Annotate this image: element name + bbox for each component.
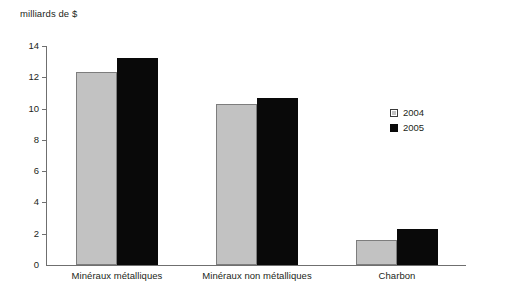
legend-swatch-2005-icon [390,124,398,132]
plot-area: 02468101214 Minéraux métalliquesMinéraux… [46,46,466,265]
category-label: Minéraux non métalliques [202,270,311,282]
y-tick-label: 12 [28,71,39,82]
y-axis-line [46,46,47,265]
y-axis-title: milliards de $ [20,8,77,20]
bar-group [76,46,158,265]
bar-chart: milliards de $ 02468101214 Minéraux méta… [0,0,511,308]
y-tick-label: 2 [34,228,39,239]
y-tick-label: 8 [34,134,39,145]
bar-group [216,46,298,265]
bar-2004[interactable] [76,72,117,265]
bar-2005[interactable] [117,58,158,265]
category-label: Charbon [379,270,416,282]
legend-label-2005: 2005 [403,122,424,133]
y-tick-label: 14 [28,40,39,51]
y-tick-label: 10 [28,103,39,114]
chart-legend: 2004 2005 [390,105,424,135]
y-tick-mark [42,140,47,141]
y-tick-label: 4 [34,196,39,207]
category-label: Minéraux métalliques [72,270,163,282]
bar-2005[interactable] [257,98,298,265]
y-tick-mark [42,46,47,47]
bar-2004[interactable] [216,104,257,265]
y-tick-label: 6 [34,165,39,176]
y-tick-mark [42,202,47,203]
x-axis-line [46,265,466,266]
legend-label-2004: 2004 [403,107,424,118]
legend-item-2005[interactable]: 2005 [390,120,424,135]
bar-2004[interactable] [356,240,397,265]
y-tick-mark [42,234,47,235]
y-tick-mark [42,109,47,110]
bar-2005[interactable] [397,229,438,265]
legend-swatch-2004-icon [390,109,398,117]
y-tick-mark [42,171,47,172]
legend-item-2004[interactable]: 2004 [390,105,424,120]
bar-group [356,46,438,265]
y-tick-label: 0 [34,259,39,270]
y-tick-mark [42,77,47,78]
